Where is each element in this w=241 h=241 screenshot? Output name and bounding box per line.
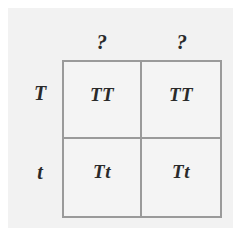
column-header-1: ? bbox=[62, 26, 142, 58]
row-label-1: T bbox=[18, 60, 62, 139]
punnett-cell: Tt bbox=[142, 139, 220, 216]
column-header-row: ? ? bbox=[62, 26, 222, 58]
punnett-cell: Tt bbox=[64, 139, 142, 216]
punnett-cell: TT bbox=[142, 62, 220, 139]
row-label-2: t bbox=[18, 139, 62, 218]
column-header-2: ? bbox=[142, 26, 222, 58]
punnett-grid: TT TT Tt Tt bbox=[62, 60, 222, 218]
punnett-square-figure: ? ? T t TT TT Tt Tt bbox=[0, 0, 241, 241]
punnett-cell: TT bbox=[64, 62, 142, 139]
row-label-column: T t bbox=[18, 60, 62, 218]
